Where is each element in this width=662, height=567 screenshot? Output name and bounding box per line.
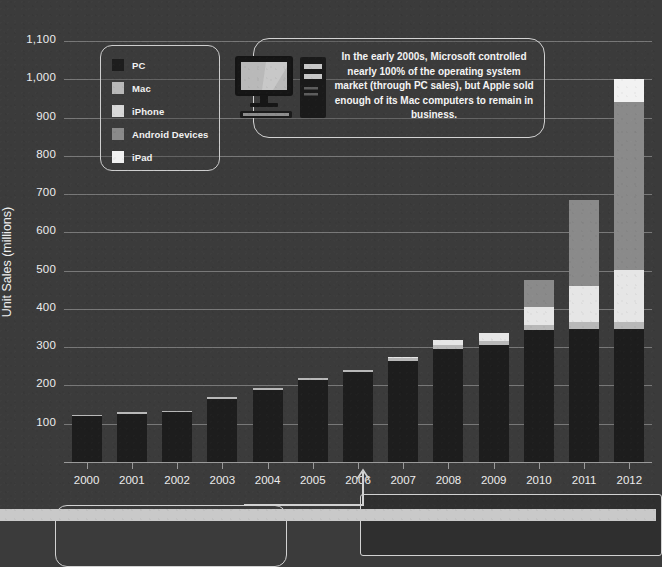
bar-2011 — [569, 200, 599, 462]
bar-2007 — [388, 357, 418, 462]
y-axis-tick-label: 700 — [8, 186, 56, 198]
x-axis-tick — [268, 463, 269, 469]
bar-segment-pc — [117, 414, 147, 462]
gridline — [64, 309, 652, 310]
bar-2001 — [117, 412, 147, 462]
x-axis-tick — [584, 463, 585, 469]
y-axis-tick-label: 400 — [8, 301, 56, 313]
bar-segment-iphone — [614, 270, 644, 322]
x-axis-tick — [629, 463, 630, 469]
desktop-computer-icon — [232, 53, 332, 125]
bar-segment-pc — [298, 380, 328, 462]
legend-swatch — [112, 82, 124, 94]
legend-item-android-devices[interactable]: Android Devices — [112, 128, 208, 140]
x-axis-tick — [448, 463, 449, 469]
x-axis-tick — [132, 463, 133, 469]
legend-swatch — [112, 105, 124, 117]
y-axis-tick-label: 200 — [8, 377, 56, 389]
bottom-right-callout-box — [360, 494, 662, 556]
bar-2003 — [207, 397, 237, 462]
y-axis-tick-label: 100 — [8, 416, 56, 428]
bar-2002 — [162, 411, 192, 462]
bar-segment-pc — [479, 345, 509, 462]
x-axis-tick — [177, 463, 178, 469]
x-axis-tick-label: 2012 — [599, 474, 659, 486]
bar-segment-android-devices — [524, 280, 554, 307]
x-axis-tick — [87, 463, 88, 469]
bar-segment-ipad — [614, 79, 644, 101]
gridline — [64, 271, 652, 272]
leader-line-horizontal — [244, 504, 364, 506]
bar-segment-pc — [343, 372, 373, 462]
legend-item-ipad[interactable]: iPad — [112, 151, 152, 163]
bar-segment-pc — [72, 416, 102, 462]
legend-label: Mac — [132, 83, 151, 94]
y-axis-tick-label: 300 — [8, 339, 56, 351]
x-axis-tick — [539, 463, 540, 469]
legend: PCMaciPhoneAndroid DevicesiPad — [100, 45, 220, 171]
gridline — [64, 194, 652, 195]
legend-label: Android Devices — [132, 129, 208, 140]
x-axis-tick — [313, 463, 314, 469]
y-axis-title-wrap: Unit Sales (millions) — [0, 0, 18, 150]
bar-segment-iphone — [569, 286, 599, 322]
legend-item-pc[interactable]: PC — [112, 59, 145, 71]
gridline — [64, 347, 652, 348]
bar-2008 — [433, 340, 463, 462]
bar-2012 — [614, 79, 644, 462]
bar-segment-android-devices — [614, 102, 644, 270]
legend-item-mac[interactable]: Mac — [112, 82, 151, 94]
bar-2006 — [343, 370, 373, 462]
bar-segment-android-devices — [569, 200, 599, 286]
annotation-callout: In the early 2000s, Microsoft controlled… — [253, 38, 545, 138]
legend-swatch — [112, 151, 124, 163]
bar-2000 — [72, 415, 102, 462]
y-axis-tick-label: 500 — [8, 263, 56, 275]
legend-item-iphone[interactable]: iPhone — [112, 105, 164, 117]
bar-segment-mac — [614, 322, 644, 329]
callout-text: In the early 2000s, Microsoft controlled… — [332, 50, 536, 123]
bar-segment-iphone — [479, 333, 509, 341]
leader-arrow-up-icon — [355, 466, 371, 478]
bar-segment-mac — [569, 322, 599, 329]
bar-2004 — [253, 388, 283, 462]
legend-swatch — [112, 59, 124, 71]
bar-2005 — [298, 378, 328, 462]
bar-segment-pc — [524, 330, 554, 462]
bar-segment-pc — [614, 329, 644, 462]
y-axis-title: Unit Sales (millions) — [0, 152, 14, 372]
x-axis-tick — [494, 463, 495, 469]
bar-segment-pc — [207, 399, 237, 462]
bar-segment-pc — [569, 329, 599, 462]
bar-segment-pc — [253, 390, 283, 462]
legend-label: iPad — [132, 152, 152, 163]
bar-segment-pc — [162, 412, 192, 462]
legend-label: PC — [132, 60, 145, 71]
legend-label: iPhone — [132, 106, 164, 117]
y-axis-tick-label: 600 — [8, 224, 56, 236]
bar-segment-iphone — [524, 307, 554, 325]
bar-2009 — [479, 333, 509, 462]
bar-2010 — [524, 280, 554, 462]
x-axis-tick — [403, 463, 404, 469]
gridline — [64, 232, 652, 233]
bottom-band — [0, 509, 656, 521]
bar-segment-pc — [433, 349, 463, 462]
x-axis-tick — [222, 463, 223, 469]
legend-swatch — [112, 128, 124, 140]
bar-segment-pc — [388, 361, 418, 462]
